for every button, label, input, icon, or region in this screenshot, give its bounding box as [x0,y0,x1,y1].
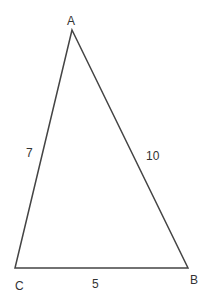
vertex-label-c: C [15,279,24,293]
side-label-ab: 10 [146,149,160,163]
side-label-ac: 7 [26,146,33,160]
triangle-diagram: A B C 7 10 5 [0,0,213,308]
side-label-cb: 5 [92,277,99,291]
triangle-abc [15,30,188,268]
triangle-svg: A B C 7 10 5 [0,0,213,308]
vertex-label-a: A [67,14,75,28]
vertex-label-b: B [190,273,198,287]
